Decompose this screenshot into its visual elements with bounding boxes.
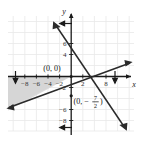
- graph-figure: −8 −6 −4 −2 2 8 6 4 2 −6 −8 x y (0, 0) (…: [0, 0, 142, 145]
- coordinate-plane-svg: −8 −6 −4 −2 2 8 6 4 2 −6 −8 x y (0, 0) (…: [0, 0, 142, 145]
- y-intercept-fraction-denominator: 2: [94, 103, 97, 109]
- x-tick-label--8: −8: [21, 80, 29, 88]
- x-axis-label: x: [131, 80, 136, 89]
- x-tick-label--6: −6: [33, 80, 41, 88]
- y-axis-label: y: [61, 7, 66, 16]
- y-intercept-point-dot: [70, 94, 73, 97]
- origin-point-label: (0, 0): [43, 64, 61, 73]
- y-tick-label--2: 2: [63, 84, 67, 92]
- y-tick-label-4: 4: [63, 51, 67, 59]
- y-intercept-label-prefix: (0, −: [74, 97, 90, 106]
- y-intercept-fraction-numerator: 7: [94, 95, 97, 101]
- y-intercept-label-suffix: ): [100, 97, 103, 106]
- x-tick-label--4: −4: [44, 80, 52, 88]
- y-tick-label-6: 6: [63, 40, 67, 48]
- y-tick-label--6: −6: [59, 106, 67, 114]
- y-tick-label--8: −8: [59, 117, 67, 125]
- origin-point-dot: [70, 75, 73, 78]
- x-tick-label-2: 2: [81, 80, 85, 88]
- x-tick-label-8: 8: [104, 80, 108, 88]
